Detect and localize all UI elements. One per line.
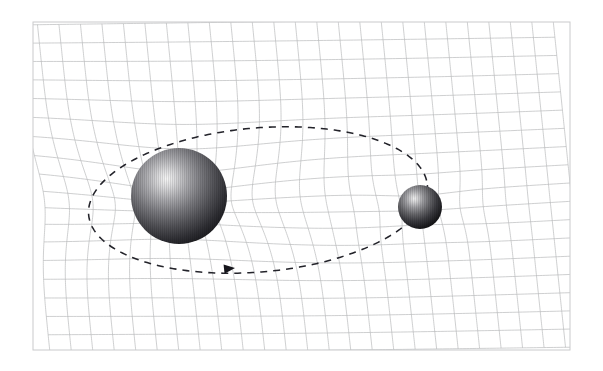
small-sphere-texture bbox=[398, 185, 442, 229]
large-sphere-texture bbox=[131, 148, 227, 244]
small-mass-body bbox=[398, 185, 442, 229]
figure-background bbox=[0, 0, 603, 371]
spacetime-diagram-canvas bbox=[0, 0, 603, 371]
spacetime-curvature-figure bbox=[0, 0, 603, 371]
large-mass-body bbox=[131, 148, 227, 244]
